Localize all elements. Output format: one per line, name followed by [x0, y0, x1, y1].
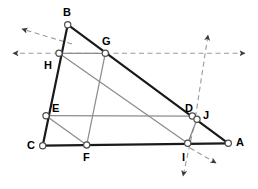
- point-label-G: G: [102, 36, 111, 47]
- inner-segments-group: [46, 53, 197, 145]
- point-label-H: H: [44, 60, 52, 71]
- triangle-outline-group: [43, 25, 229, 146]
- geometry-diagram-canvas: A B C D E F G H I J: [0, 0, 258, 189]
- point-label-I: I: [182, 152, 185, 163]
- segment-I-J-line: [188, 119, 197, 143]
- ray-diagonal-downright-icon: [190, 148, 216, 163]
- point-label-C: C: [27, 140, 35, 151]
- point-I-node[interactable]: [185, 140, 191, 146]
- segment-B-C-line: [43, 25, 68, 146]
- point-C-node[interactable]: [40, 143, 46, 149]
- point-A-node[interactable]: [225, 140, 231, 146]
- segment-B-A-line: [68, 25, 229, 144]
- segment-E-F-line: [46, 116, 87, 145]
- point-G-node[interactable]: [102, 50, 108, 56]
- ray-steep-up-icon: [196, 35, 209, 117]
- point-label-E: E: [52, 103, 59, 114]
- point-J-node[interactable]: [194, 116, 200, 122]
- point-F-node[interactable]: [84, 142, 90, 148]
- point-label-D: D: [185, 103, 193, 114]
- point-label-F: F: [83, 152, 90, 163]
- dashed-through-segments: [59, 53, 197, 141]
- point-label-A: A: [236, 137, 244, 148]
- vertex-nodes-group: [40, 22, 232, 149]
- geometry-figure: [0, 0, 258, 189]
- point-H-node[interactable]: [56, 50, 62, 56]
- point-label-B: B: [63, 7, 71, 18]
- point-label-J: J: [203, 110, 209, 121]
- point-B-node[interactable]: [65, 22, 71, 28]
- segment-C-A-line: [43, 143, 229, 145]
- point-E-node[interactable]: [43, 113, 49, 119]
- segment-G-F-line: [87, 53, 106, 145]
